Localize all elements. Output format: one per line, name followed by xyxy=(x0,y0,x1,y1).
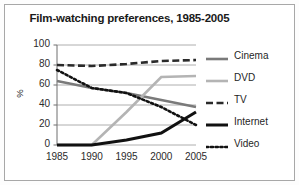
x-tick-label: 2000 xyxy=(144,151,178,162)
y-tick-label: 100 xyxy=(24,38,50,49)
legend-label: Internet xyxy=(234,116,268,127)
legend-item-internet[interactable]: Internet xyxy=(206,110,292,132)
legend-swatch-icon xyxy=(206,138,228,148)
series-line-internet xyxy=(57,112,196,145)
series-line-video xyxy=(57,70,196,125)
y-tick-label: 20 xyxy=(24,118,50,129)
legend-item-video[interactable]: Video xyxy=(206,132,292,154)
legend-label: TV xyxy=(234,94,247,105)
legend-item-tv[interactable]: TV xyxy=(206,88,292,110)
legend-label: Video xyxy=(234,138,259,149)
y-tick-label: 60 xyxy=(24,78,50,89)
x-tick-label: 1990 xyxy=(75,151,109,162)
legend-swatch-icon xyxy=(206,94,228,104)
y-tick-label: 0 xyxy=(24,138,50,149)
legend-swatch-icon xyxy=(206,50,228,60)
legend-item-cinema[interactable]: Cinema xyxy=(206,44,292,66)
x-tick-label: 1995 xyxy=(110,151,144,162)
legend-label: DVD xyxy=(234,72,255,83)
y-tick-label: 80 xyxy=(24,58,50,69)
chart-figure: Film-watching preferences, 1985-2005 % 0… xyxy=(0,0,299,185)
legend-item-dvd[interactable]: DVD xyxy=(206,66,292,88)
legend-swatch-icon xyxy=(206,72,228,82)
legend-swatch-icon xyxy=(206,116,228,126)
x-tick-label: 1985 xyxy=(40,151,74,162)
chart-legend: CinemaDVDTVInternetVideo xyxy=(206,44,292,154)
y-tick-label: 40 xyxy=(24,98,50,109)
legend-label: Cinema xyxy=(234,50,268,61)
